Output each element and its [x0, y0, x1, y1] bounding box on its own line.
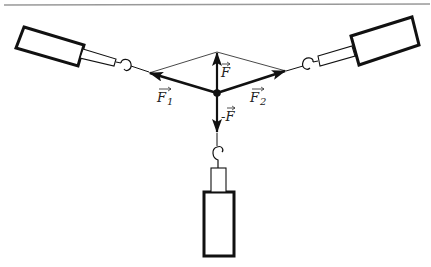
- svg-text:F: F: [249, 90, 260, 105]
- svg-text:F: F: [156, 90, 167, 105]
- top-rule: [4, 4, 430, 5]
- left-spring-scale: [16, 27, 149, 72]
- left-hook-icon: [116, 59, 131, 70]
- right-scale-barrel: [318, 46, 355, 66]
- svg-text:1: 1: [167, 96, 173, 107]
- left-scale-body: [16, 27, 84, 66]
- right-string: [286, 66, 303, 71]
- label-f2: F 2: [249, 87, 266, 107]
- svg-text:2: 2: [259, 96, 266, 107]
- right-scale-body: [351, 17, 419, 65]
- right-hook-icon: [303, 58, 318, 69]
- center-point: [213, 89, 221, 97]
- bottom-spring-scale: [204, 133, 234, 256]
- right-spring-scale: [286, 17, 419, 71]
- bottom-scale-body: [204, 192, 234, 256]
- svg-text:-F: -F: [221, 109, 235, 124]
- bottom-scale-barrel: [211, 168, 226, 192]
- left-scale-barrel: [80, 49, 116, 66]
- force-diagram: F F 1 F 2 -F: [0, 0, 431, 267]
- label-f: F: [220, 62, 231, 80]
- svg-text:F: F: [220, 65, 231, 80]
- label-minus-f: -F: [221, 106, 235, 124]
- label-f1: F 1: [156, 87, 173, 107]
- bottom-hook-icon: [213, 147, 223, 168]
- left-string: [131, 66, 149, 72]
